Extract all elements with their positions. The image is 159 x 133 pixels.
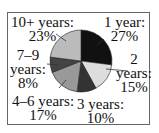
label-3-years: 3 years: 10% xyxy=(77,97,124,125)
label-2-years-unit: years: xyxy=(116,66,152,80)
label-3-years-value: 10% xyxy=(77,111,124,125)
label-1-year: 1 year: 27% xyxy=(104,15,145,43)
label-1-year-name: 1 year: xyxy=(104,15,145,29)
label-2-years: 2 years: 15% xyxy=(116,52,152,94)
label-4-6-years-value: 17% xyxy=(12,108,74,122)
label-4-6-years-name: 4–6 years: xyxy=(12,94,74,108)
label-2-years-value: 15% xyxy=(116,80,152,94)
label-7-9-years-unit: years: xyxy=(10,62,46,76)
label-10-plus-years-value: 23% xyxy=(11,29,74,43)
label-3-years-name: 3 years: xyxy=(77,97,124,111)
label-4-6-years: 4–6 years: 17% xyxy=(12,94,74,122)
label-10-plus-years-name: 10+ years: xyxy=(11,15,74,29)
label-7-9-years-value: 8% xyxy=(10,76,46,90)
label-10-plus-years: 10+ years: 23% xyxy=(11,15,74,43)
label-1-year-value: 27% xyxy=(104,29,145,43)
label-7-9-years-name: 7–9 xyxy=(10,48,46,62)
label-2-years-name: 2 xyxy=(116,52,152,66)
label-7-9-years: 7–9 years: 8% xyxy=(10,48,46,90)
